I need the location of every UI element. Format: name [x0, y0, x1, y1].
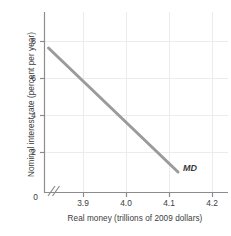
y-tick-label-2: 2 [22, 147, 36, 157]
y-tick-label-6: 6 [22, 73, 36, 83]
x-tick-label-3-9: 3.9 [69, 198, 97, 208]
y-tick-label-8: 8 [22, 36, 36, 46]
x-axis-ticks [84, 193, 213, 198]
axis-break-icon [48, 186, 60, 196]
x-tick-label-4-2: 4.2 [198, 198, 226, 208]
origin-label: 0 [26, 192, 38, 202]
y-tick-label-4: 4 [22, 110, 36, 120]
money-demand-chart: Nominal interest rate (percent per year)… [0, 0, 231, 236]
y-axis-ticks [40, 42, 45, 153]
x-axis-label: Real money (trillions of 2009 dollars) [40, 214, 230, 223]
horizontal-gridlines [44, 42, 228, 153]
x-tick-label-4-1: 4.1 [155, 198, 183, 208]
x-tick-label-4-0: 4.0 [112, 198, 140, 208]
money-demand-curve-label: MD [183, 163, 197, 173]
money-demand-curve [49, 48, 179, 172]
